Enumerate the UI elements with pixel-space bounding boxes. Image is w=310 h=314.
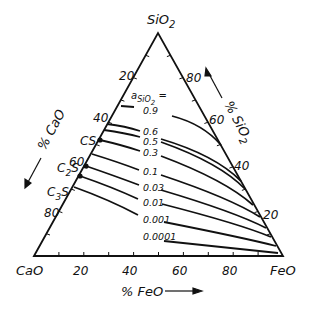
curve-0.1 [92,154,139,170]
curve-0.9 [121,106,134,107]
curve-0.001 [74,187,138,215]
right-tick-60: 60 [209,113,225,127]
cs-label: CS [80,134,97,148]
svg-text:0.3: 0.3 [143,147,158,158]
cs-point [97,137,102,142]
left-tick-80: 80 [44,206,60,220]
svg-text:0.01: 0.01 [143,197,164,208]
vertex-sio2-label: SiO2 [147,12,175,30]
cao-arrow-icon [27,158,41,184]
svg-text:40: 40 [122,264,138,278]
bottom-axis-label: % FeO [121,284,163,299]
left-axis-label: % CaO [34,107,68,153]
svg-text:0.0001: 0.0001 [143,231,176,242]
curve-0.01 [80,176,138,199]
curve-0.5 [104,130,140,137]
bottom-tick-labels: 20 40 60 80 [73,264,238,278]
curve-0.6 [107,124,140,131]
svg-text:0.1: 0.1 [143,166,158,177]
svg-text:80: 80 [222,264,238,278]
svg-text:0.9: 0.9 [143,105,158,116]
vertex-feo-label: FeO [270,263,296,278]
curve-0.03-b [161,190,266,228]
ternary-diagram: SiO2 CaO FeO 20 40 60 80 % FeO 20 40 60 … [0,0,310,314]
svg-text:0.5: 0.5 [143,136,158,147]
left-tick-40: 40 [93,111,109,125]
svg-text:20: 20 [73,264,89,278]
curve-0.3 [100,140,140,151]
diagram-canvas: SiO2 CaO FeO 20 40 60 80 % FeO 20 40 60 … [0,0,310,314]
curve-0.1-b [161,175,260,217]
right-tick-40: 40 [234,159,250,173]
svg-text:0.03: 0.03 [143,182,164,193]
vertex-cao-label: CaO [16,263,43,278]
svg-text:60: 60 [172,264,188,278]
right-tick-20: 20 [263,208,279,222]
curve-value-labels: 0.9 0.6 0.5 0.3 0.1 0.03 0.01 0.001 0.00… [143,105,176,242]
svg-text:0.001: 0.001 [143,214,170,225]
right-tick-80: 80 [186,71,202,85]
curve-0.03 [86,166,139,185]
axis-arrows [25,68,222,294]
left-tick-20: 20 [119,69,135,83]
